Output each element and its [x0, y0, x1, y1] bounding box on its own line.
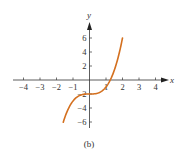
- y-axis-label: y: [86, 10, 91, 20]
- y-tick-label: −6: [77, 117, 86, 127]
- x-axis-label: x: [169, 75, 174, 85]
- figure-caption: (b): [84, 139, 95, 149]
- y-tick-label: 4: [82, 47, 87, 57]
- x-tick-label: −2: [52, 82, 61, 92]
- x-tick-label: −4: [19, 82, 29, 92]
- y-tick-label: −4: [77, 103, 87, 113]
- y-tick-label: 2: [82, 61, 86, 71]
- x-tick-label: −1: [68, 82, 77, 92]
- x-tick-label: 2: [120, 82, 124, 92]
- x-tick-label: 3: [137, 82, 141, 92]
- y-tick-label: 6: [82, 33, 86, 43]
- function-graph: −4−3−2−11234642−2−4−6 x y (b): [0, 0, 188, 154]
- x-tick-label: −3: [35, 82, 44, 92]
- y-axis-arrow-icon: [87, 22, 92, 30]
- x-tick-label: 4: [153, 82, 158, 92]
- x-axis-arrow-icon: [161, 78, 169, 83]
